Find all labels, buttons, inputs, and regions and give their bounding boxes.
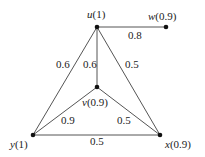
- edge-weight-label: 0.6: [83, 58, 97, 70]
- node-label-w: w(0.9): [148, 10, 177, 23]
- graph-diagram: 0.80.60.60.50.90.50.5 u(1)w(0.9)v(0.9)y(…: [0, 0, 205, 157]
- node-weight: (1): [15, 138, 28, 151]
- edge-weight-label: 0.8: [128, 29, 142, 41]
- node-weight: (0.9): [170, 138, 191, 151]
- edge-weight-label: 0.6: [56, 58, 70, 70]
- node-weight: (0.9): [155, 10, 176, 23]
- node-x: [158, 133, 163, 138]
- node-weight: (0.9): [87, 96, 108, 109]
- node-v: [95, 85, 100, 90]
- node-label-x: x(0.9): [164, 138, 191, 151]
- node-label-v: v(0.9): [82, 96, 108, 109]
- edge-weight-label: 0.9: [61, 114, 75, 126]
- edges-group: [33, 27, 166, 135]
- node-w: [164, 25, 169, 30]
- node-label-u: u(1): [87, 8, 106, 21]
- node-y: [31, 133, 36, 138]
- node-weight: (1): [93, 8, 106, 21]
- nodes-group: [31, 25, 169, 138]
- edge-weight-label: 0.5: [117, 114, 131, 126]
- node-label-y: y(1): [9, 138, 28, 151]
- edge-weight-label: 0.5: [90, 135, 104, 147]
- node-u: [95, 25, 100, 30]
- edge-v-x: [97, 87, 160, 135]
- edge-weight-label: 0.5: [125, 58, 139, 70]
- edge-v-y: [33, 87, 97, 135]
